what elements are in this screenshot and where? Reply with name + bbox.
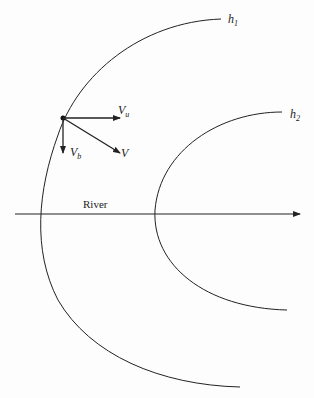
- v-label: V: [121, 147, 128, 159]
- vb-label: Vb: [70, 146, 81, 161]
- h1-curve: [41, 19, 240, 387]
- river-label: River: [83, 199, 107, 210]
- diagram-canvas: h1 h2 Vu Vb V River: [0, 0, 314, 398]
- vu-label: Vu: [118, 104, 129, 119]
- h2-curve: [155, 112, 287, 310]
- h2-label: h2: [290, 108, 300, 123]
- diagram-svg: [0, 0, 314, 398]
- h1-label: h1: [228, 13, 238, 28]
